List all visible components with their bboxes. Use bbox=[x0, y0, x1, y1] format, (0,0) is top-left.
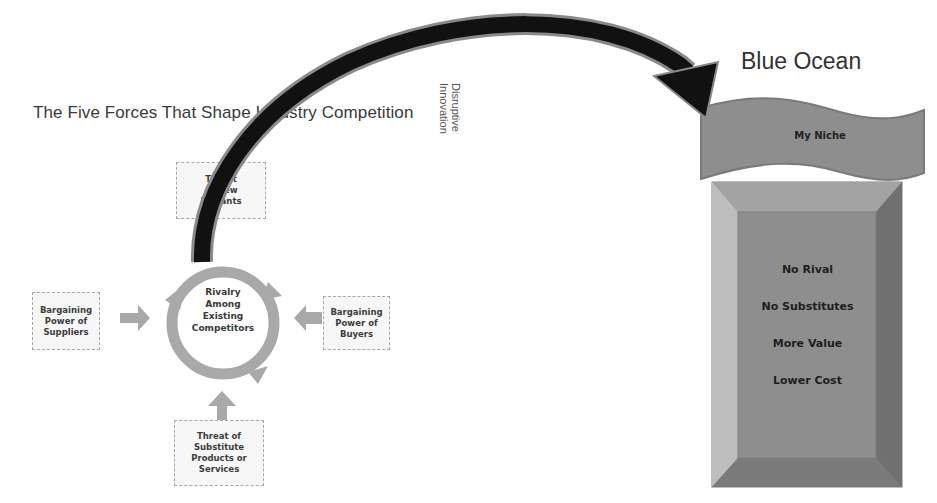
blue-ocean-item-no-rival: No Rival bbox=[740, 263, 875, 276]
blue-ocean-item-more-value: More Value bbox=[740, 337, 875, 350]
blue-ocean-item-no-substitutes: No Substitutes bbox=[740, 300, 875, 313]
disruptive-innovation-arrow-icon bbox=[0, 0, 937, 503]
blue-ocean-item-lower-cost: Lower Cost bbox=[740, 374, 875, 387]
my-niche-label: My Niche bbox=[780, 130, 860, 141]
blue-ocean-title: Blue Ocean bbox=[741, 48, 861, 75]
